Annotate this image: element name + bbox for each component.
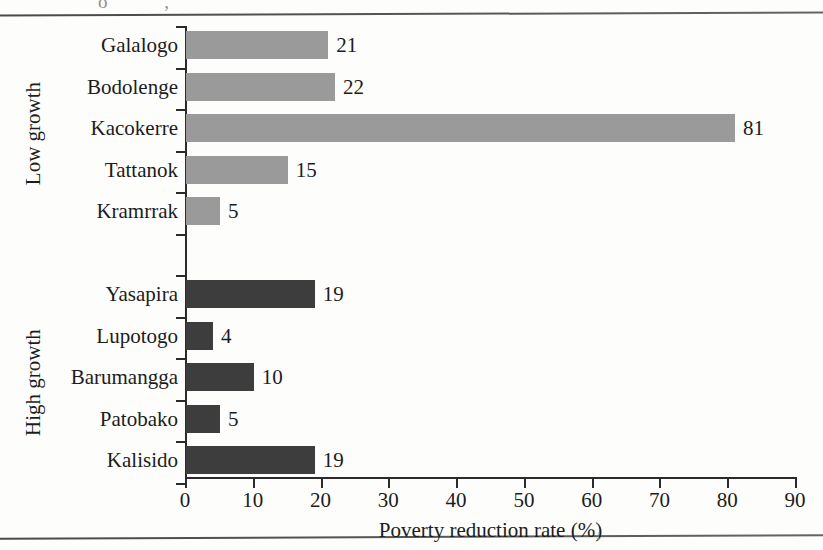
group-label-low-growth: Low growth <box>21 38 46 228</box>
y-tick-6 <box>176 275 186 277</box>
bar-yasapira <box>186 280 315 308</box>
x-axis-title: Poverty reduction rate (%) <box>185 518 796 543</box>
x-tick-label-50: 50 <box>499 490 549 511</box>
x-tick-label-40: 40 <box>431 490 481 511</box>
y-tick-3 <box>176 151 186 153</box>
bar-galalogo <box>186 31 328 59</box>
bar-value-kalisido: 19 <box>323 446 344 474</box>
bar-value-lupotogo: 4 <box>221 322 232 350</box>
x-tick-label-0: 0 <box>160 490 210 511</box>
bar-value-kramrrak: 5 <box>228 197 239 225</box>
x-tick-50 <box>524 477 526 488</box>
x-tick-label-30: 30 <box>363 490 413 511</box>
bar-kacokerre <box>186 114 735 142</box>
bar-lupotogo <box>186 322 213 350</box>
y-tick-8 <box>176 358 186 360</box>
group-label-high-growth: High growth <box>21 287 46 477</box>
bar-value-galalogo: 21 <box>336 31 357 59</box>
y-tick-2 <box>176 109 186 111</box>
bar-value-kacokerre: 81 <box>743 114 764 142</box>
y-tick-4 <box>176 192 186 194</box>
y-tick-9 <box>176 400 186 402</box>
x-tick-70 <box>659 477 661 488</box>
x-tick-10 <box>253 477 255 488</box>
x-tick-60 <box>592 477 594 488</box>
bar-tattanok <box>186 156 288 184</box>
x-tick-80 <box>727 477 729 488</box>
y-tick-1 <box>176 68 186 70</box>
bar-value-barumangga: 10 <box>262 363 283 391</box>
x-tick-20 <box>321 477 323 488</box>
y-tick-10 <box>176 441 186 443</box>
bar-value-bodolenge: 22 <box>343 73 364 101</box>
bar-kalisido <box>186 446 315 474</box>
x-tick-label-90: 90 <box>770 490 820 511</box>
bar-kramrrak <box>186 197 220 225</box>
scan-artifact-axis: ↓ <box>595 528 602 544</box>
x-tick-label-70: 70 <box>634 490 684 511</box>
bar-patobako <box>186 405 220 433</box>
bar-barumangga <box>186 363 254 391</box>
bar-bodolenge <box>186 73 335 101</box>
bar-value-tattanok: 15 <box>296 156 317 184</box>
bar-value-yasapira: 19 <box>323 280 344 308</box>
x-axis-spine <box>185 477 796 479</box>
y-tick-5 <box>176 234 186 236</box>
x-tick-label-80: 80 <box>702 490 752 511</box>
y-tick-7 <box>176 317 186 319</box>
bar-value-patobako: 5 <box>228 405 239 433</box>
x-tick-label-60: 60 <box>567 490 617 511</box>
scan-artifact-top: o , <box>98 0 195 13</box>
y-tick-0 <box>176 26 186 28</box>
x-tick-40 <box>456 477 458 488</box>
x-tick-0 <box>185 477 187 488</box>
x-tick-30 <box>388 477 390 488</box>
x-tick-90 <box>795 477 797 488</box>
x-tick-label-10: 10 <box>228 490 278 511</box>
bar-chart: 0102030405060708090 21228115519410519 Ga… <box>0 18 823 523</box>
x-tick-label-20: 20 <box>296 490 346 511</box>
